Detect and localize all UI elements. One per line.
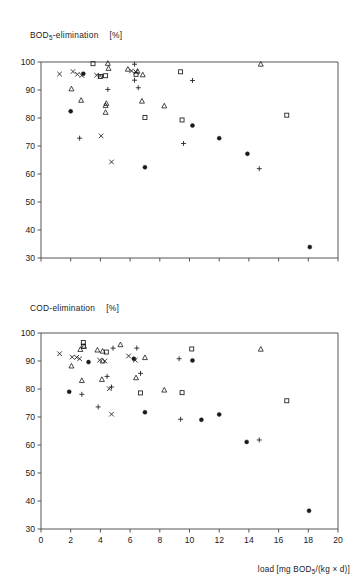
chart-panel-bod5: BOD5-elimination[%] 30405060708090100 [0, 0, 362, 292]
svg-text:60: 60 [25, 440, 35, 450]
x-axis-label-pre: load [mg BOD [258, 565, 312, 574]
svg-text:14: 14 [244, 535, 254, 545]
svg-text:4: 4 [98, 535, 103, 545]
figure-root: BOD5-elimination[%] 30405060708090100 CO… [0, 0, 362, 587]
svg-text:60: 60 [25, 169, 35, 179]
svg-text:6: 6 [128, 535, 133, 545]
svg-text:20: 20 [333, 535, 343, 545]
x-axis-label-post: /(kg × d)] [315, 565, 350, 574]
svg-text:80: 80 [25, 113, 35, 123]
svg-text:90: 90 [25, 356, 35, 366]
svg-text:12: 12 [214, 535, 224, 545]
x-axis-label: load [mg BOD5/(kg × d)] [258, 565, 350, 574]
svg-text:100: 100 [21, 328, 36, 338]
svg-text:8: 8 [157, 535, 162, 545]
svg-text:2: 2 [68, 535, 73, 545]
svg-text:50: 50 [25, 197, 35, 207]
scatter-plot-bod5: 30405060708090100 [0, 0, 362, 292]
svg-text:10: 10 [185, 535, 195, 545]
svg-text:18: 18 [304, 535, 314, 545]
chart-panel-cod: COD-elimination[%] 304050607080901000246… [0, 292, 362, 587]
svg-text:40: 40 [25, 225, 35, 235]
svg-text:70: 70 [25, 412, 35, 422]
svg-text:0: 0 [39, 535, 44, 545]
svg-text:70: 70 [25, 141, 35, 151]
x-axis-label-sub: 5 [312, 568, 316, 575]
svg-text:80: 80 [25, 384, 35, 394]
scatter-plot-cod: 3040506070809010002468101214161820 [0, 292, 362, 587]
svg-text:16: 16 [274, 535, 284, 545]
svg-text:40: 40 [25, 496, 35, 506]
svg-text:30: 30 [25, 524, 35, 534]
svg-text:100: 100 [21, 57, 36, 67]
svg-text:50: 50 [25, 468, 35, 478]
svg-text:90: 90 [25, 85, 35, 95]
svg-text:30: 30 [25, 253, 35, 263]
